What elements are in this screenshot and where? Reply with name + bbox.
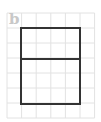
- figure-label: b: [9, 12, 20, 27]
